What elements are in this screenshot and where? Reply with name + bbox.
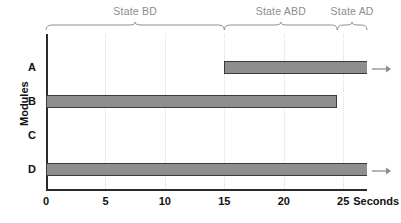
row-label-b: B <box>24 95 40 107</box>
x-tick-label: 0 <box>43 195 49 207</box>
x-tick-label: 20 <box>278 195 290 207</box>
state-label-state-bd: State BD <box>85 5 185 17</box>
gantt-chart: State BD State ABD State AD Modules ABCD… <box>0 0 401 223</box>
x-tick-label: 15 <box>218 195 230 207</box>
continuation-arrow-d-icon <box>371 163 393 175</box>
state-brace <box>337 22 367 30</box>
x-tick-label: 5 <box>102 195 108 207</box>
state-brace-group <box>0 21 401 34</box>
bar-module-a <box>224 61 367 74</box>
x-tick-label: 10 <box>159 195 171 207</box>
continuation-arrow-a-icon <box>371 61 393 73</box>
x-tick-label: 25 <box>337 195 349 207</box>
state-label-state-ad: State AD <box>302 5 401 17</box>
state-band: State BD State ABD State AD <box>0 0 401 34</box>
row-label-d: D <box>24 163 40 175</box>
row-label-a: A <box>24 61 40 73</box>
state-brace <box>224 22 337 30</box>
x-axis-line <box>46 189 367 191</box>
x-axis-unit-label: Seconds <box>353 195 399 207</box>
state-brace <box>46 22 224 30</box>
bar-module-b <box>46 95 337 108</box>
plot-area: Modules <box>46 34 367 191</box>
bar-module-d <box>46 163 367 176</box>
row-label-c: C <box>24 129 40 141</box>
